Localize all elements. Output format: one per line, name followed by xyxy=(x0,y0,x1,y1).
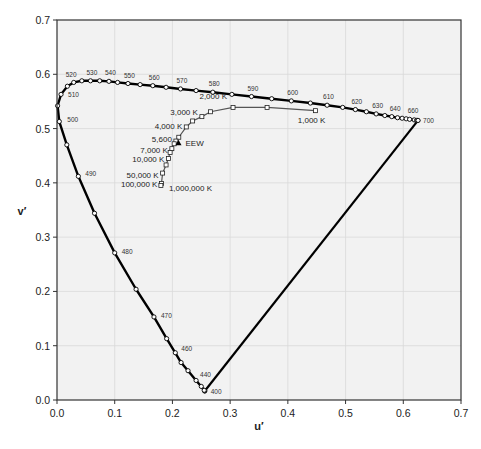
spectral-marker xyxy=(194,378,198,382)
planck-marker xyxy=(161,171,165,175)
spectral-marker xyxy=(186,369,190,373)
spectral-marker xyxy=(353,107,357,111)
eew-label: EEW xyxy=(185,139,204,148)
x-tick-label: 0.4 xyxy=(281,407,296,419)
cct-label: 100,000 K xyxy=(121,180,158,189)
spectral-marker xyxy=(194,88,198,92)
y-tick-label: 0.5 xyxy=(35,123,50,135)
cct-label: 4,000 K xyxy=(155,122,183,131)
spectral-marker xyxy=(164,85,168,89)
plot-area xyxy=(57,20,461,400)
wavelength-label: 590 xyxy=(247,85,258,92)
x-tick-label: 0.3 xyxy=(223,407,238,419)
wavelength-label: 580 xyxy=(209,80,220,87)
x-tick-label: 0.0 xyxy=(50,407,65,419)
spectral-marker xyxy=(289,99,293,103)
y-tick-label: 0.0 xyxy=(35,394,50,406)
cct-label: 5,600 xyxy=(152,135,173,144)
wavelength-label: 700 xyxy=(423,117,434,124)
cct-label: 10,000 K xyxy=(132,155,165,164)
spectral-marker xyxy=(65,84,69,88)
spectral-marker xyxy=(88,79,92,83)
wavelength-label: 530 xyxy=(86,69,97,76)
wavelength-label: 640 xyxy=(390,105,401,112)
spectral-marker xyxy=(152,315,156,319)
y-tick-label: 0.1 xyxy=(35,340,50,352)
wavelength-label: 610 xyxy=(323,93,334,100)
wavelength-label: 470 xyxy=(161,312,172,319)
planck-marker xyxy=(200,115,204,119)
wavelength-label: 490 xyxy=(85,170,96,177)
planck-marker xyxy=(177,135,181,139)
cie-uv-chromaticity-chart: 4004404604704804905005105205305405505605… xyxy=(0,0,481,449)
x-axis-label: u′ xyxy=(254,420,264,432)
y-axis-label: v′ xyxy=(18,205,27,217)
wavelength-label: 400 xyxy=(211,388,222,395)
spectral-marker xyxy=(390,115,394,119)
wavelength-label: 500 xyxy=(67,116,78,123)
spectral-marker xyxy=(178,87,182,91)
spectral-marker xyxy=(230,92,234,96)
wavelength-label: 570 xyxy=(177,77,188,84)
planck-marker xyxy=(191,119,195,123)
y-tick-label: 0.4 xyxy=(35,177,50,189)
x-tick-label: 0.1 xyxy=(107,407,122,419)
planck-marker xyxy=(159,184,163,188)
y-tick-label: 0.3 xyxy=(35,231,50,243)
planck-marker xyxy=(184,125,188,129)
spectral-marker xyxy=(408,117,412,121)
x-tick-label: 0.7 xyxy=(454,407,469,419)
spectral-marker xyxy=(249,94,253,98)
cct-label: 1,000 K xyxy=(298,116,326,125)
spectral-marker xyxy=(341,105,345,109)
spectral-marker xyxy=(202,388,206,392)
spectral-marker xyxy=(308,101,312,105)
spectral-marker xyxy=(416,118,420,122)
spectral-marker xyxy=(80,79,84,83)
y-tick-label: 0.7 xyxy=(35,14,50,26)
planck-marker xyxy=(164,163,168,167)
planck-marker xyxy=(265,105,269,109)
wavelength-label: 540 xyxy=(105,69,116,76)
spectral-marker xyxy=(395,116,399,120)
spectral-marker xyxy=(126,81,130,85)
planck-marker xyxy=(314,109,318,113)
cct-label: 3,000 K xyxy=(170,108,198,117)
spectral-marker xyxy=(364,110,368,114)
spectral-marker xyxy=(270,97,274,101)
y-tick-label: 0.6 xyxy=(35,68,50,80)
wavelength-label: 440 xyxy=(200,371,211,378)
spectral-marker xyxy=(138,83,142,87)
planck-marker xyxy=(166,156,170,160)
spectral-marker xyxy=(57,119,61,123)
wavelength-label: 620 xyxy=(351,98,362,105)
spectral-marker xyxy=(72,80,76,84)
spectral-marker xyxy=(113,251,117,255)
x-tick-label: 0.5 xyxy=(338,407,353,419)
spectral-marker xyxy=(165,337,169,341)
wavelength-label: 480 xyxy=(122,248,133,255)
spectral-marker xyxy=(134,287,138,291)
spectral-marker xyxy=(199,384,203,388)
wavelength-label: 560 xyxy=(149,74,160,81)
wavelength-label: 460 xyxy=(181,345,192,352)
spectral-marker xyxy=(76,174,80,178)
spectral-marker xyxy=(179,360,183,364)
wavelength-label: 510 xyxy=(68,91,79,98)
planck-marker xyxy=(209,110,213,114)
spectral-marker xyxy=(59,92,63,96)
spectral-marker xyxy=(383,113,387,117)
y-tick-label: 0.2 xyxy=(35,285,50,297)
spectral-marker xyxy=(98,79,102,83)
spectral-marker xyxy=(65,143,69,147)
wavelength-label: 660 xyxy=(408,107,419,114)
wavelength-label: 630 xyxy=(372,102,383,109)
cct-label: 1,000,000 K xyxy=(169,184,213,193)
spectral-marker xyxy=(92,211,96,215)
wavelength-label: 600 xyxy=(287,89,298,96)
cct-label: 50,000 K xyxy=(127,171,160,180)
spectral-marker xyxy=(116,80,120,84)
x-tick-label: 0.2 xyxy=(165,407,180,419)
spectral-marker xyxy=(107,79,111,83)
spectral-marker xyxy=(400,116,404,120)
